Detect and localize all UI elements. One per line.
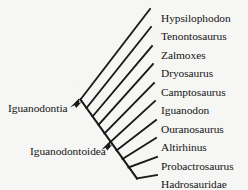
branch-hadrosauridae bbox=[137, 175, 157, 179]
branch-zalmoxes bbox=[93, 46, 153, 117]
taxon-label-hadrosauridae: Hadrosauridae bbox=[161, 179, 227, 190]
taxon-label-ouranosaurus: Ouranosaurus bbox=[161, 124, 224, 135]
clade-label-iguanodontoidea: Iguanodontoidea bbox=[30, 146, 106, 157]
taxon-label-hypsilophodon: Hypsilophodon bbox=[161, 13, 231, 24]
taxon-label-zalmoxes: Zalmoxes bbox=[161, 50, 206, 61]
branch-hypsilophodon bbox=[81, 9, 151, 100]
taxon-label-altirhinus: Altirhinus bbox=[161, 142, 207, 153]
taxon-label-dryosaurus: Dryosaurus bbox=[161, 68, 213, 79]
branch-probactrosaurus bbox=[129, 157, 158, 168]
node-markers bbox=[70, 99, 113, 151]
taxon-label-camptosaurus: Camptosaurus bbox=[161, 87, 226, 98]
branch-dryosaurus bbox=[99, 64, 154, 125]
branch-ouranosaurus bbox=[117, 120, 157, 151]
taxon-label-tenontosaurus: Tenontosaurus bbox=[161, 31, 227, 42]
taxon-label-iguanodon: Iguanodon bbox=[161, 105, 209, 116]
clade-label-iguanodontia: Iguanodontia bbox=[8, 103, 68, 114]
cladogram-figure: Hypsilophodon Tenontosaurus Zalmoxes Dry… bbox=[0, 0, 248, 190]
taxon-label-probactrosaurus: Probactrosaurus bbox=[161, 161, 234, 172]
